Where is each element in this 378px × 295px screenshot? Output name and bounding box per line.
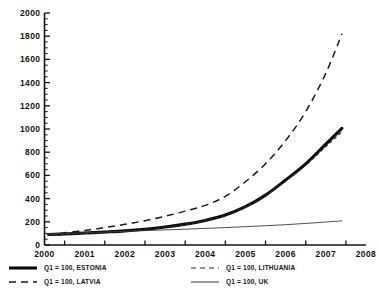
y-tick-label: 1200 xyxy=(20,101,41,111)
legend-label-lithuania: Q1 = 100, LITHUANIA xyxy=(226,264,295,271)
legend-column-right: Q1 = 100, LITHUANIA Q1 = 100, UK xyxy=(190,262,295,290)
x-tick-label: 2003 xyxy=(155,249,176,259)
legend-column-left: Q1 = 100, ESTONIA Q1 = 100, LATVIA xyxy=(8,262,107,290)
chart-figure: 0200400600800100012001400160018002000 20… xyxy=(0,0,378,295)
y-tick-label: 800 xyxy=(25,147,40,157)
legend-label-latvia: Q1 = 100, LATVIA xyxy=(44,278,101,285)
chart-canvas: 0200400600800100012001400160018002000 20… xyxy=(0,0,378,295)
y-tick-label: 600 xyxy=(25,170,40,180)
legend-swatch-latvia xyxy=(8,277,38,287)
legend-item-estonia: Q1 = 100, ESTONIA xyxy=(8,262,107,273)
x-tick-label: 2002 xyxy=(115,249,136,259)
chart-legend: Q1 = 100, ESTONIA Q1 = 100, LATVIA Q1 = … xyxy=(0,262,378,295)
legend-label-uk: Q1 = 100, UK xyxy=(226,278,268,285)
legend-swatch-estonia xyxy=(8,263,38,273)
legend-swatch-lithuania xyxy=(190,263,220,273)
x-tick-label: 2004 xyxy=(195,249,216,259)
x-axis-tick-labels: 200020012002200320042005200620072008 xyxy=(34,249,376,259)
y-tick-label: 200 xyxy=(25,217,40,227)
y-tick-label: 1600 xyxy=(20,54,41,64)
x-tick-label: 2007 xyxy=(316,249,337,259)
y-tick-label: 1800 xyxy=(20,31,41,41)
x-tick-label: 2005 xyxy=(235,249,256,259)
y-tick-label: 2000 xyxy=(20,8,41,18)
legend-item-uk: Q1 = 100, UK xyxy=(190,276,295,287)
legend-label-estonia: Q1 = 100, ESTONIA xyxy=(44,264,107,271)
y-tick-label: 1400 xyxy=(20,78,41,88)
y-tick-label: 1000 xyxy=(20,124,41,134)
legend-swatch-uk xyxy=(190,277,220,287)
x-tick-label: 2008 xyxy=(356,249,377,259)
x-tick-label: 2000 xyxy=(34,249,55,259)
x-tick-label: 2006 xyxy=(275,249,296,259)
y-tick-label: 400 xyxy=(25,194,40,204)
x-tick-label: 2001 xyxy=(74,249,95,259)
legend-item-latvia: Q1 = 100, LATVIA xyxy=(8,276,107,287)
legend-item-lithuania: Q1 = 100, LITHUANIA xyxy=(190,262,295,273)
